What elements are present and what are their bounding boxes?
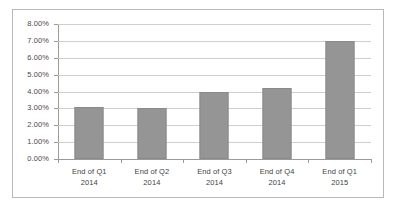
x-axis-category-label: End of Q3 2014 xyxy=(183,167,246,188)
x-axis-category-label: End of Q1 2015 xyxy=(308,167,371,188)
bar-slot xyxy=(183,24,246,159)
x-axis-category-line: 2014 xyxy=(121,178,184,189)
bar xyxy=(325,41,354,159)
bar-slot xyxy=(58,24,121,159)
x-tick-mark xyxy=(371,159,372,163)
x-axis-category-label: End of Q4 2014 xyxy=(246,167,309,188)
x-axis-category-line: 2014 xyxy=(183,178,246,189)
x-axis-category-line: 2014 xyxy=(246,178,309,189)
y-axis-label: 2.00% xyxy=(15,121,49,129)
y-axis-label: 1.00% xyxy=(15,138,49,146)
y-axis-label: 7.00% xyxy=(15,37,49,45)
x-axis-category-line: End of Q2 xyxy=(121,167,184,178)
x-axis-category-line: End of Q4 xyxy=(246,167,309,178)
y-axis-label: 0.00% xyxy=(15,155,49,163)
plot-area xyxy=(58,24,371,159)
bar xyxy=(263,88,292,159)
bar-slot xyxy=(121,24,184,159)
x-axis-category-line: 2015 xyxy=(308,178,371,189)
x-axis-category-line: 2014 xyxy=(58,178,121,189)
x-tick-mark xyxy=(58,159,59,163)
bar xyxy=(137,108,166,159)
x-axis-category-label: End of Q1 2014 xyxy=(58,167,121,188)
x-axis-category-line: End of Q3 xyxy=(183,167,246,178)
x-tick-mark xyxy=(121,159,122,163)
x-axis-category-label: End of Q2 2014 xyxy=(121,167,184,188)
y-axis-label: 3.00% xyxy=(15,104,49,112)
x-tick-mark xyxy=(308,159,309,163)
bar xyxy=(75,107,104,159)
bar-slot xyxy=(246,24,309,159)
x-tick-mark xyxy=(246,159,247,163)
chart-frame: 8.00% 7.00% 6.00% 5.00% 4.00% 3.00% 2.00… xyxy=(12,9,384,198)
y-axis-label: 8.00% xyxy=(15,20,49,28)
bar xyxy=(200,92,229,159)
x-axis-category-line: End of Q1 xyxy=(308,167,371,178)
bar-slot xyxy=(308,24,371,159)
y-axis-label: 6.00% xyxy=(15,54,49,62)
y-axis-label: 5.00% xyxy=(15,71,49,79)
x-axis-category-line: End of Q1 xyxy=(58,167,121,178)
y-axis-label: 4.00% xyxy=(15,88,49,96)
x-tick-mark xyxy=(183,159,184,163)
x-axis-line xyxy=(58,159,371,160)
